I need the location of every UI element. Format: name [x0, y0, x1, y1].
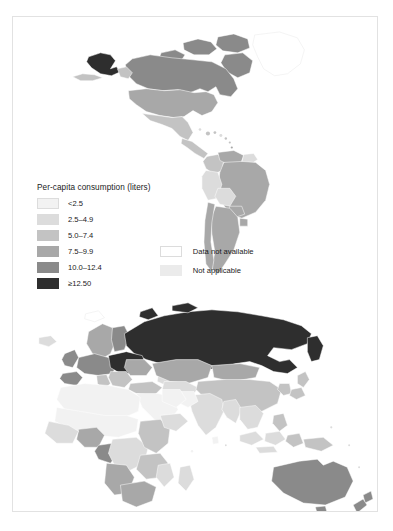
legend-item-gte-12-50[interactable]: ≥12.50 [37, 277, 102, 290]
legend-swatch-lt-2-5 [37, 198, 59, 209]
legend-label-2-5-4-9: 2.5–4.9 [68, 215, 93, 224]
legend-label-10-0-12-4: 10.0–12.4 [68, 263, 102, 272]
legend-swatch-not-applicable [160, 265, 182, 276]
legend-item-2-5-4-9[interactable]: 2.5–4.9 [37, 213, 102, 226]
legend-swatch-5-0-7-4 [37, 230, 59, 241]
legend-label-not-applicable: Not applicable [193, 266, 241, 275]
map-figure: .ld{stroke:#ffffff;stroke-width:.5;strok… [12, 16, 378, 512]
legend-label-lt-2-5: <2.5 [68, 199, 83, 208]
legend-item-lt-2-5[interactable]: <2.5 [37, 197, 102, 210]
legend-secondary: Data not available Not applicable [160, 245, 254, 283]
legend-title: Per-capita consumption (liters) [37, 183, 254, 192]
map-legend: Per-capita consumption (liters) <2.5 2.5… [37, 183, 254, 294]
legend-swatch-7-5-9-9 [37, 246, 59, 257]
legend-item-10-0-12-4[interactable]: 10.0–12.4 [37, 261, 102, 274]
legend-item-5-0-7-4[interactable]: 5.0–7.4 [37, 229, 102, 242]
legend-swatch-gte-12-50 [37, 278, 59, 289]
legend-swatch-2-5-4-9 [37, 214, 59, 225]
region-sri-lanka [212, 436, 219, 444]
legend-item-not-applicable[interactable]: Not applicable [160, 264, 254, 277]
legend-scale: <2.5 2.5–4.9 5.0–7.4 7.5–9.9 10.0–12.4 [37, 197, 102, 294]
region-indonesia-java [256, 446, 278, 453]
legend-label-7-5-9-9: 7.5–9.9 [68, 247, 93, 256]
region-tasmania [315, 506, 327, 511]
legend-label-gte-12-50: ≥12.50 [68, 279, 91, 288]
legend-label-5-0-7-4: 5.0–7.4 [68, 231, 93, 240]
legend-item-7-5-9-9[interactable]: 7.5–9.9 [37, 245, 102, 258]
legend-item-data-not-available[interactable]: Data not available [160, 245, 254, 258]
legend-swatch-data-not-available [160, 246, 182, 257]
legend-swatch-10-0-12-4 [37, 262, 59, 273]
legend-label-data-not-available: Data not available [193, 247, 254, 256]
